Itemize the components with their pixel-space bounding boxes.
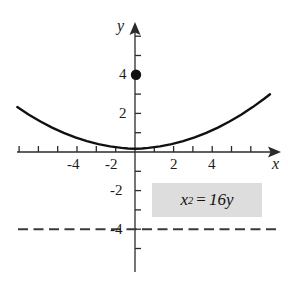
- x-tick-label-neg2: -2: [105, 157, 118, 172]
- y-axis-label: y: [117, 18, 124, 34]
- y-tick-label-4: 4: [119, 67, 127, 82]
- y-tick-label-2: 2: [119, 106, 127, 121]
- y-tick-label-neg2: -2: [110, 183, 123, 198]
- y-axis-ticks: [135, 36, 141, 248]
- equation-right: 16y: [209, 190, 234, 210]
- x-axis-label: x: [272, 156, 279, 172]
- x-tick-label-4: 4: [208, 157, 216, 172]
- y-tick-label-neg4: -4: [110, 222, 123, 237]
- equation-base: x: [181, 190, 189, 210]
- parabola-figure: y x 4 2 -2 -4 -4 -2 2 4 x2=16y: [0, 0, 288, 282]
- plot-canvas: [0, 0, 288, 282]
- equation-operator: =: [193, 190, 209, 210]
- x-tick-label-2: 2: [170, 157, 178, 172]
- focus-point-dot: [131, 70, 141, 80]
- parabola-curve: [17, 94, 270, 149]
- equation-label: x2=16y: [152, 183, 262, 217]
- x-tick-label-neg4: -4: [67, 157, 80, 172]
